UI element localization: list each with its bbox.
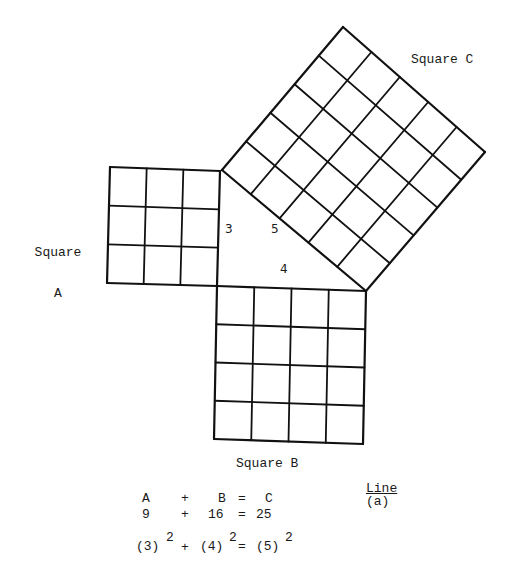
- square-b-grid: [214, 286, 366, 444]
- square-c-label: Square C: [411, 53, 473, 66]
- eq-equals-3: =: [238, 540, 246, 553]
- eq-square-a: (3): [136, 540, 159, 553]
- eq-square-a-exp: 2: [166, 531, 174, 544]
- eq-equals-1: =: [238, 492, 246, 505]
- line-note-sub: (a): [366, 495, 389, 508]
- eq-square-c-base: (5): [256, 540, 279, 553]
- square-b-label: Square B: [236, 457, 298, 470]
- square-a-label: Square A: [28, 220, 88, 326]
- eq-square-b-exp: 2: [229, 531, 237, 544]
- eq-plus-2: +: [181, 508, 189, 521]
- eq-plus-1: +: [181, 492, 189, 505]
- eq-letter-a: A: [142, 492, 150, 505]
- side-c-length: 5: [271, 223, 279, 235]
- square-a-label-line1: Square: [28, 246, 88, 259]
- side-a-length: 3: [225, 223, 233, 235]
- eq-plus-3: +: [181, 541, 189, 554]
- eq-square-b-base: (4): [200, 540, 223, 553]
- eq-square-a-base: (3): [136, 539, 159, 554]
- eq-letter-b: B: [218, 492, 226, 505]
- square-a-label-line2: A: [28, 287, 88, 300]
- eq-value-c: 25: [256, 508, 272, 521]
- square-a-grid: [107, 167, 220, 286]
- eq-value-b: 16: [208, 508, 224, 521]
- side-b-length: 4: [280, 263, 288, 275]
- pythagoras-diagram: Square A Square B Square C 3 5 4 A + B =…: [0, 0, 516, 584]
- eq-square-c-exp: 2: [285, 531, 293, 544]
- eq-equals-2: =: [238, 508, 246, 521]
- eq-letter-c: C: [265, 492, 273, 505]
- eq-value-a: 9: [142, 508, 150, 521]
